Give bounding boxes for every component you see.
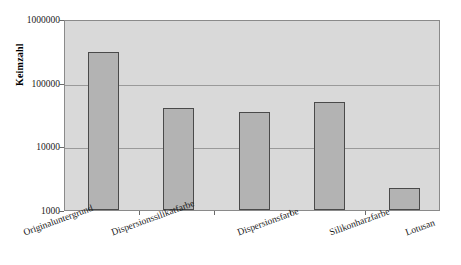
bar [88, 52, 119, 210]
x-axis-label: Lotusan [404, 218, 436, 238]
y-tick-label: 10000 [2, 142, 60, 152]
y-tick-mark [59, 84, 64, 85]
gridline [65, 85, 439, 86]
y-tick-mark [59, 20, 64, 21]
y-axis-title: Keimzahl [14, 43, 25, 86]
bar [389, 188, 420, 210]
bar-chart: 1000100001000001000000 Keimzahl Original… [0, 0, 461, 265]
y-tick-label: 1000 [2, 206, 60, 216]
y-tick-label: 100000 [2, 79, 60, 89]
x-tick-mark [214, 211, 215, 215]
bar [239, 112, 270, 210]
x-axis-label: Silikonharzfarbe [328, 206, 391, 237]
bar [163, 108, 194, 210]
y-tick-label: 1000000 [2, 15, 60, 25]
bar [314, 102, 345, 210]
x-tick-mark [139, 211, 140, 215]
y-tick-mark [59, 147, 64, 148]
plot-area [64, 20, 440, 211]
